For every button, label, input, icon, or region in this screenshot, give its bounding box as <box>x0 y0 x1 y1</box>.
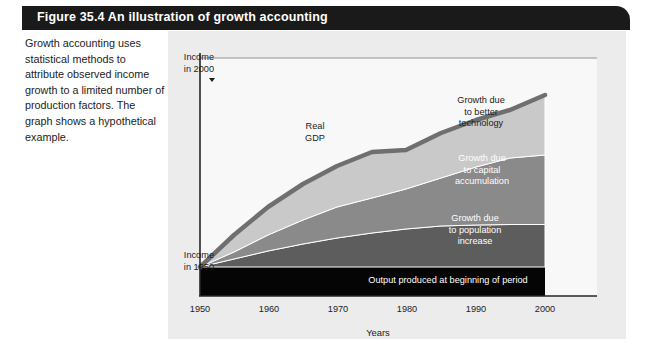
figure-title-banner: Figure 35.4 An illustration of growth ac… <box>22 6 630 30</box>
x-tick-2000: 2000 <box>535 304 555 314</box>
annotation-capital-line2: to capital <box>464 165 501 175</box>
annotation-technology-line1: Growth due <box>457 95 505 105</box>
x-tick-1980: 1980 <box>397 304 417 314</box>
x-axis-title: Years <box>168 327 588 338</box>
x-tick-1950: 1950 <box>190 304 210 314</box>
annotation-technology-line3: technology <box>459 118 503 128</box>
y-label-income-1950-line1: Income <box>184 250 214 260</box>
y-label-income-2000: Income in 2000 <box>170 52 214 75</box>
annotation-population-growth: Growth due to population increase <box>433 213 517 248</box>
figure-caption: Growth accounting uses statistical metho… <box>25 36 165 145</box>
annotation-population-line2: to population <box>449 225 502 235</box>
annotation-real-gdp: Real GDP <box>298 121 332 144</box>
y-label-income-2000-line1: Income <box>184 52 214 62</box>
income-2000-arrow-icon <box>209 78 215 82</box>
annotation-real-gdp-line1: Real <box>306 121 325 131</box>
annotation-technology-line2: to better <box>464 107 498 117</box>
annotation-capital-accumulation: Growth due to capital accumulation <box>440 153 524 188</box>
annotation-technology-growth: Growth due to better technology <box>442 95 520 130</box>
x-tick-1990: 1990 <box>466 304 486 314</box>
x-axis-tick-row: 1950 1960 1970 1980 1990 2000 <box>168 304 626 318</box>
growth-accounting-area-chart <box>168 31 626 339</box>
chart-panel: Income in 2000 Income in 1950 Real GDP G… <box>168 31 626 339</box>
x-tick-1960: 1960 <box>259 304 279 314</box>
figure-title: Figure 35.4 An illustration of growth ac… <box>37 10 328 24</box>
annotation-population-line1: Growth due <box>451 213 499 223</box>
annotation-output-base: Output produced at beginning of period <box>358 275 538 287</box>
annotation-capital-line1: Growth due <box>458 153 506 163</box>
y-label-income-2000-line2: in 2000 <box>184 64 214 74</box>
x-tick-1970: 1970 <box>328 304 348 314</box>
annotation-real-gdp-line2: GDP <box>305 133 325 143</box>
annotation-capital-line3: accumulation <box>455 176 509 186</box>
y-label-income-1950-line2: in 1950 <box>184 262 214 272</box>
annotation-population-line3: increase <box>458 236 493 246</box>
y-label-income-1950: Income in 1950 <box>170 250 214 273</box>
